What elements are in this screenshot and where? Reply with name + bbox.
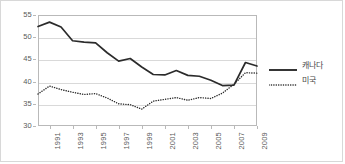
legend-line-icon xyxy=(269,76,297,86)
x-axis-tick-mark xyxy=(257,126,258,129)
y-axis-tick-mark xyxy=(33,126,36,127)
x-axis-tick-label: 2003 xyxy=(192,132,200,150)
x-axis-tick-label: 1997 xyxy=(123,132,131,150)
legend-item-1[interactable]: 캐나다 xyxy=(269,58,341,73)
y-axis: 303540455055 xyxy=(1,1,36,140)
x-axis-tick-label: 2001 xyxy=(169,132,177,150)
x-axis-tick-label: 1993 xyxy=(77,132,85,150)
x-axis-tick-mark xyxy=(73,126,74,129)
legend-line-icon xyxy=(269,61,297,71)
y-axis-tick-label: 50 xyxy=(23,33,32,41)
y-axis-tick-mark xyxy=(33,59,36,60)
y-axis-tick-mark xyxy=(33,104,36,105)
legend-item-2[interactable]: 미국 xyxy=(269,73,341,88)
legend-label: 미국 xyxy=(302,76,316,86)
x-axis-tick-mark xyxy=(96,126,97,129)
x-axis-tick-label: 1999 xyxy=(146,132,154,150)
x-axis-tick-mark xyxy=(188,126,189,129)
series-line-1 xyxy=(38,22,257,86)
x-axis-tick-mark xyxy=(211,126,212,129)
y-axis-tick-mark xyxy=(33,37,36,38)
y-axis-tick-label: 45 xyxy=(23,55,32,63)
series-layer xyxy=(38,15,257,126)
x-axis-tick-mark xyxy=(50,126,51,129)
x-axis-tick-mark xyxy=(142,126,143,129)
y-axis-tick-label: 35 xyxy=(23,100,32,108)
y-axis-tick-label: 40 xyxy=(23,78,32,86)
x-axis-tick-label: 2009 xyxy=(261,132,269,150)
x-axis-tick-mark xyxy=(234,126,235,129)
chart-figure: 303540455055 199119931995199719992001200… xyxy=(0,0,343,162)
y-axis-tick-mark xyxy=(33,15,36,16)
y-axis-tick-label: 30 xyxy=(23,122,32,130)
y-axis-tick-label: 55 xyxy=(23,11,32,19)
x-axis-tick-mark xyxy=(165,126,166,129)
y-axis-tick-mark xyxy=(33,82,36,83)
x-axis-tick-label: 1991 xyxy=(54,132,62,150)
series-line-2 xyxy=(38,73,257,109)
legend-label: 캐나다 xyxy=(302,61,323,71)
x-axis: 1991199319951997199920012003200520072009 xyxy=(38,126,257,164)
x-axis-tick-label: 1995 xyxy=(100,132,108,150)
x-axis-tick-mark xyxy=(119,126,120,129)
x-axis-tick-label: 2007 xyxy=(238,132,246,150)
chart-legend: 캐나다미국 xyxy=(269,58,341,88)
x-axis-tick-label: 2005 xyxy=(215,132,223,150)
